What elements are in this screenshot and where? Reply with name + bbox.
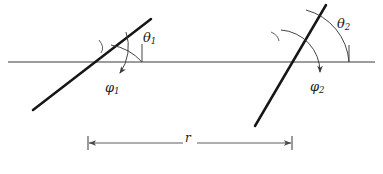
theta-2-subscript: 2 [345, 22, 350, 32]
right-line-tick-icon [271, 32, 279, 41]
theta-1-subscript: 1 [151, 36, 156, 46]
phi-2-subscript: 2 [319, 85, 324, 95]
theta-2-symbol: θ [337, 16, 345, 31]
theta-2-label: θ2 [337, 16, 350, 32]
phi-2-label: φ2 [310, 79, 325, 95]
distance-label: r [185, 131, 191, 145]
right-phi-arc [281, 30, 320, 72]
distance-symbol: r [185, 131, 191, 145]
right-slanted-line [255, 5, 326, 126]
left-line-tick-icon [99, 40, 103, 53]
figure-canvas [0, 0, 383, 174]
right-element-group [255, 5, 349, 126]
phi-1-symbol: φ [105, 80, 114, 95]
phi-2-symbol: φ [310, 79, 319, 94]
theta-1-symbol: θ [143, 30, 151, 45]
geometry-figure: θ1 φ1 θ2 φ2 r [0, 0, 383, 174]
phi-1-subscript: 1 [114, 86, 119, 96]
theta-1-label: θ1 [143, 30, 156, 46]
left-slanted-line [33, 19, 151, 110]
left-element-group [33, 19, 151, 110]
phi-1-label: φ1 [105, 80, 120, 96]
